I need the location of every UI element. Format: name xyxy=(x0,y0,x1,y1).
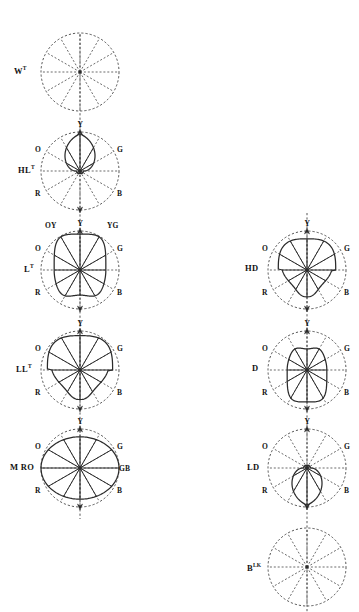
grid-spoke xyxy=(307,567,327,601)
center-marker xyxy=(79,269,82,272)
hue-label-mro-g: G xyxy=(117,442,123,451)
grid-spoke xyxy=(80,53,114,73)
center-marker xyxy=(306,566,309,569)
hue-label-llt-r: R xyxy=(35,388,41,397)
grid-spoke xyxy=(273,449,307,469)
hue-label-ld-o: O xyxy=(262,442,268,451)
hue-label-mro-o: O xyxy=(35,442,41,451)
hue-label-ld-g: G xyxy=(344,442,350,451)
center-marker xyxy=(79,369,82,372)
center-marker xyxy=(306,467,309,470)
hue-label-lt-g: G xyxy=(117,244,123,253)
polar-plot-hlt xyxy=(41,129,119,213)
hue-label-d-o: O xyxy=(262,344,268,353)
hue-label-d-y: Y xyxy=(305,319,311,328)
grid-spoke xyxy=(307,434,327,468)
hue-label-hd-g: G xyxy=(344,244,350,253)
polar-plot-mro xyxy=(41,426,119,510)
grid-spoke xyxy=(46,53,80,73)
grid-spoke xyxy=(80,38,100,72)
hue-label-lt-o: O xyxy=(35,244,41,253)
hue-label-llt-o: O xyxy=(35,344,41,353)
hue-label-hlt-r: R xyxy=(35,189,41,198)
center-marker xyxy=(306,269,309,272)
hue-label-lt-y: Y xyxy=(78,219,84,228)
center-marker xyxy=(79,467,82,470)
hue-label-ld-y: Y xyxy=(305,417,311,426)
grid-spoke xyxy=(273,567,307,587)
grid-spoke xyxy=(307,533,327,567)
grid-spoke xyxy=(307,567,341,587)
center-marker xyxy=(79,71,82,74)
hue-label-lt-r: R xyxy=(35,288,41,297)
hue-label-hlt-o: O xyxy=(35,145,41,154)
hue-label-lt-yg: YG xyxy=(107,221,119,230)
hue-label-ld-b: B xyxy=(344,486,349,495)
grid-spoke xyxy=(273,548,307,568)
polar-plot-hd xyxy=(268,228,346,312)
color-tint-polar-diagram xyxy=(0,0,359,612)
hue-label-hlt-g: G xyxy=(117,145,123,154)
grid-spoke xyxy=(307,548,341,568)
hue-label-mro-b: B xyxy=(117,486,122,495)
grid-spoke xyxy=(80,72,114,92)
hue-label-hd-r: R xyxy=(262,288,268,297)
hue-label-hlt-y: Y xyxy=(78,120,84,129)
grid-spoke xyxy=(61,72,81,106)
center-marker xyxy=(79,170,82,173)
plot-label-mro: M RO xyxy=(10,462,34,472)
hue-label-llt-b: B xyxy=(117,388,122,397)
plot-label-blk: BLK xyxy=(247,562,261,573)
hue-label-hd-y: Y xyxy=(305,219,311,228)
grid-spoke xyxy=(80,171,100,205)
hue-label-hlt-b: B xyxy=(117,189,122,198)
hue-label-mro-r: R xyxy=(35,486,41,495)
polar-plot-llt xyxy=(41,328,119,412)
hue-label-mro-gb: GB xyxy=(119,464,130,473)
hue-label-llt-g: G xyxy=(117,344,123,353)
grid-spoke xyxy=(288,533,308,567)
center-marker xyxy=(306,369,309,372)
hue-label-d-b: B xyxy=(344,388,349,397)
hue-label-hd-o: O xyxy=(262,244,268,253)
grid-spoke xyxy=(288,567,308,601)
polar-plot-blk xyxy=(268,528,346,606)
hue-label-lt-oy: OY xyxy=(45,221,57,230)
plot-label-llt: LLT xyxy=(16,363,32,374)
hue-label-ld-r: R xyxy=(262,486,268,495)
hue-label-llt-y: Y xyxy=(78,319,84,328)
plot-label-lt: LT xyxy=(24,263,34,274)
grid-spoke xyxy=(80,171,114,191)
plot-label-hd: HD xyxy=(245,263,258,273)
grid-spoke xyxy=(80,72,100,106)
hue-label-d-g: G xyxy=(344,344,350,353)
grid-spoke xyxy=(61,171,81,205)
plot-label-wt: WT xyxy=(14,65,26,76)
grid-spoke xyxy=(46,72,80,92)
hue-label-d-r: R xyxy=(262,388,268,397)
plot-label-d: D xyxy=(252,363,258,373)
plot-label-ld: LD xyxy=(247,462,259,472)
grid-spoke xyxy=(46,171,80,191)
hue-label-mro-y: Y xyxy=(78,417,84,426)
hue-label-lt-b: B xyxy=(117,288,122,297)
grid-spoke xyxy=(61,38,81,72)
plot-label-hlt: HLT xyxy=(18,164,35,175)
grid-spoke xyxy=(288,434,308,468)
grid-spoke xyxy=(307,449,341,469)
polar-plot-wt xyxy=(41,33,119,111)
hue-label-hd-b: B xyxy=(344,288,349,297)
